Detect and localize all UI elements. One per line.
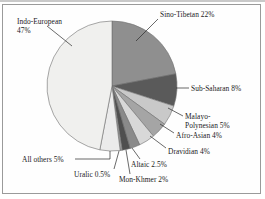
label-indo-european: Indo-European 47% [17, 17, 62, 35]
label-altaic: Altaic 2.5% [131, 160, 167, 169]
leader-altaic [132, 148, 140, 159]
label-mon-khmer: Mon-Khmer 2% [119, 175, 168, 184]
leader-dravidian [150, 136, 166, 148]
label-malayo-polynesian-line2: Polynesian 5% [185, 121, 230, 130]
label-afro-asian: Afro-Asian 4% [176, 131, 222, 140]
label-dravidian: Dravidian 4% [168, 147, 210, 156]
label-all-others: All others 5% [22, 155, 64, 164]
pie-slice-indo-european [47, 21, 112, 150]
pie-slices [47, 21, 177, 151]
label-malayo-polynesian-line1: Malayo- [185, 112, 210, 121]
label-sub-saharan: Sub-Saharan 8% [191, 84, 241, 93]
label-indo-european-name: Indo-European [17, 17, 62, 26]
label-sino-tibetan: Sino-Tibetan 22% [160, 10, 215, 19]
leader-afro-asian [160, 124, 174, 133]
label-uralic: Uralic 0.5% [74, 170, 110, 179]
leader-mon-khmer [126, 150, 130, 174]
label-malayo-polynesian: Malayo- Polynesian 5% [185, 112, 259, 130]
leader-all-others [75, 151, 110, 159]
label-indo-european-value: 47% [17, 26, 31, 35]
leader-uralic [114, 151, 119, 169]
